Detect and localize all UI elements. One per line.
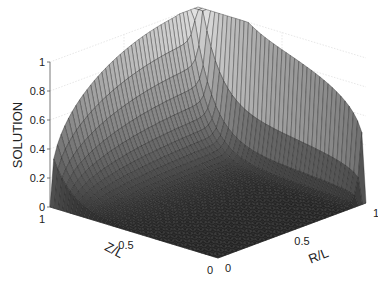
svg-text:1: 1 — [373, 207, 378, 219]
svg-text:0: 0 — [39, 201, 45, 213]
x-axis-label: R/L — [306, 245, 330, 266]
svg-text:1: 1 — [39, 213, 45, 225]
svg-text:0.4: 0.4 — [30, 143, 45, 155]
svg-text:0: 0 — [225, 262, 231, 274]
svg-text:0.2: 0.2 — [30, 172, 45, 184]
svg-text:0.8: 0.8 — [30, 85, 45, 97]
solution-surface — [50, 7, 366, 258]
svg-text:1: 1 — [39, 56, 45, 68]
svg-text:0.6: 0.6 — [30, 114, 45, 126]
surface-plot: 00.20.40.60.8100.5100.51 SOLUTION Z/L R/… — [0, 0, 378, 281]
z-axis-label: SOLUTION — [10, 102, 25, 168]
svg-text:0: 0 — [207, 264, 213, 276]
svg-text:0.5: 0.5 — [294, 235, 309, 247]
